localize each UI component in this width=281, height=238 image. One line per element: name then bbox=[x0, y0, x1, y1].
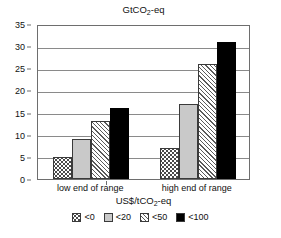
legend-swatch-icon bbox=[104, 213, 113, 222]
y-tick-label: 10 bbox=[15, 131, 25, 140]
y-tick-label: 30 bbox=[15, 43, 25, 52]
legend-item[interactable]: <20 bbox=[104, 213, 131, 222]
chart-legend: <0<20<50<100 bbox=[0, 213, 281, 222]
legend-label: <100 bbox=[188, 213, 208, 222]
y-tick-mark bbox=[27, 69, 31, 70]
bar bbox=[72, 139, 91, 179]
legend-swatch-icon bbox=[72, 213, 81, 222]
chart-title: GtCO2-eq bbox=[37, 4, 250, 18]
bar bbox=[53, 157, 72, 179]
legend-swatch-icon bbox=[140, 213, 149, 222]
y-tick-label: 20 bbox=[15, 87, 25, 96]
y-tick-label: 0 bbox=[20, 176, 25, 185]
x-axis-title-text: US$/tCO bbox=[116, 195, 154, 206]
category-label: low end of range bbox=[37, 182, 144, 194]
y-tick-label: 25 bbox=[15, 65, 25, 74]
bar bbox=[160, 148, 179, 179]
category-axis: low end of rangehigh end of range bbox=[37, 182, 250, 196]
chart-figure: GtCO2-eq 05101520253035 low end of range… bbox=[0, 0, 281, 238]
chart-title-text: GtCO bbox=[123, 4, 147, 15]
chart-title-suffix: -eq bbox=[151, 4, 165, 15]
y-axis: 05101520253035 bbox=[0, 25, 31, 180]
legend-swatch-icon bbox=[176, 213, 185, 222]
legend-label: <50 bbox=[152, 213, 167, 222]
legend-item[interactable]: <50 bbox=[140, 213, 167, 222]
legend-label: <0 bbox=[84, 213, 94, 222]
y-tick-label: 35 bbox=[15, 21, 25, 30]
x-axis-title-suffix: -eq bbox=[158, 195, 172, 206]
bar bbox=[198, 64, 217, 179]
bar bbox=[217, 42, 236, 179]
x-axis-title: US$/tCO2-eq bbox=[37, 195, 250, 209]
legend-item[interactable]: <100 bbox=[176, 213, 208, 222]
bar bbox=[91, 121, 110, 179]
legend-label: <20 bbox=[116, 213, 131, 222]
y-tick-mark bbox=[27, 157, 31, 158]
y-tick-mark bbox=[27, 25, 31, 26]
y-tick-mark bbox=[27, 47, 31, 48]
y-tick-mark bbox=[27, 180, 31, 181]
bar bbox=[179, 104, 198, 179]
category-label: high end of range bbox=[144, 182, 251, 194]
y-tick-label: 15 bbox=[15, 109, 25, 118]
y-tick-label: 5 bbox=[20, 153, 25, 162]
y-tick-mark bbox=[27, 91, 31, 92]
y-tick-mark bbox=[27, 113, 31, 114]
plot-area bbox=[37, 25, 250, 180]
y-tick-mark bbox=[27, 135, 31, 136]
legend-item[interactable]: <0 bbox=[72, 213, 94, 222]
bar bbox=[110, 108, 129, 179]
